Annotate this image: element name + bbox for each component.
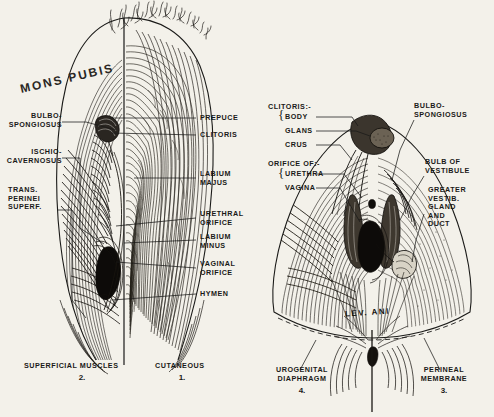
label-vaginal-orifice: VAGINALORIFICE [200, 260, 235, 277]
label-ischiocavernosus: ISCHIO-CAVERNOSUS [0, 148, 62, 165]
vaginal-orifice-aperture-right [358, 221, 384, 272]
caption-superficial-muscles: SUPERFICIAL MUSCLES [24, 362, 118, 371]
label-hymen: HYMEN [200, 290, 228, 299]
caption-perineal-line2: MEMBRANE [421, 374, 467, 383]
caption-cutaneous: CUTANEOUS [155, 362, 205, 371]
label-trans-perinei-line3: SUPERF. [8, 202, 42, 211]
label-bulbospongiosus-left: BULBO-SPONGIOSUS [0, 112, 62, 129]
urethral-orifice-aperture [369, 200, 376, 209]
label-bulbospongiosus-right: BULBO-SPONGIOSUS [414, 102, 467, 119]
label-clitoris-body: BODY [285, 113, 308, 122]
label-preputium: PREPUCE [200, 114, 238, 123]
label-urethral-orifice-line2: ORIFICE [200, 218, 233, 227]
label-orifice-urethra: URETHRA [285, 170, 324, 179]
label-gvg-line5: DUCT [428, 219, 450, 228]
label-bulb-of-vestibule-line2: VESTIBULE [425, 166, 470, 175]
caption-perineal-membrane: PERINEALMEMBRANE [408, 366, 480, 383]
label-bulbospongiosus-line2: SPONGIOSUS [9, 120, 62, 129]
clitoris-glans [370, 128, 394, 148]
caption-urogenital-number: 4. [262, 386, 342, 395]
label-trans-perinei-superf: TRANS.PERINEISUPERF. [8, 186, 66, 212]
caption-superficial-muscles-number: 2. [24, 373, 140, 382]
label-vaginal-orifice-line2: ORIFICE [200, 268, 233, 277]
label-labium-minus-line2: MINUS [200, 241, 226, 250]
caption-perineal-number: 3. [408, 386, 480, 395]
label-group-orifice: ORIFICE OF:- [268, 160, 320, 169]
caption-cutaneous-number: 1. [155, 373, 209, 382]
label-urethral-orifice: URETHRALORIFICE [200, 210, 244, 227]
caption-urogenital-diaphragm: UROGENITALDIAPHRAGM [262, 366, 342, 383]
label-greater-vestibular-gland: GREATERVESTIB.GLANDANDDUCT [428, 186, 466, 229]
label-orifice-vagina: VAGINA [285, 184, 315, 193]
caption-urogenital-line2: DIAPHRAGM [278, 374, 327, 383]
label-bulbospongiosus-r-line2: SPONGIOSUS [414, 110, 467, 119]
label-clitoris-glans: GLANS [285, 127, 313, 136]
label-labium-majus: LABIUMMAJUS [200, 170, 231, 187]
brace-orifice-group: { [278, 168, 284, 177]
label-labium-majus-line2: MAJUS [200, 178, 228, 187]
anatomical-plate [0, 0, 494, 417]
label-bulb-of-vestibule: BULB OFVESTIBULE [425, 158, 470, 175]
label-group-clitoris: CLITORIS:- [268, 103, 311, 112]
brace-clitoris-group: { [278, 110, 284, 119]
label-ischiocavernosus-line2: CAVERNOSUS [7, 156, 62, 165]
label-clitoris-crus: CRUS [285, 141, 307, 150]
label-clitoris-left-fig: CLITORIS [200, 131, 237, 140]
label-labium-minus: LABIUMMINUS [200, 233, 231, 250]
